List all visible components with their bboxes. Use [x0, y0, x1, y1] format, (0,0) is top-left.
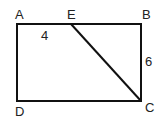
rectangle-abcd — [17, 24, 141, 101]
vertex-label-a: A — [15, 7, 24, 22]
vertex-label-c: C — [145, 100, 154, 115]
segment-ec — [71, 24, 141, 101]
vertex-label-e: E — [67, 7, 76, 22]
geometry-diagram: A E B C D 4 6 — [0, 0, 165, 123]
measurement-ae: 4 — [41, 28, 48, 43]
measurement-bc: 6 — [145, 54, 152, 69]
vertex-label-b: B — [142, 7, 151, 22]
vertex-label-d: D — [15, 104, 24, 119]
